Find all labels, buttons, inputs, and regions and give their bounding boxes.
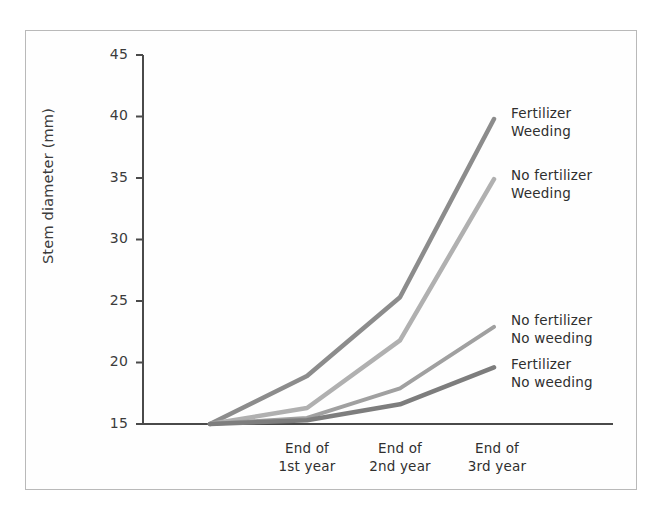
series-label-fertilizer-weeding-line1: Fertilizer bbox=[511, 105, 571, 123]
series-line-fertilizer-weeding bbox=[210, 119, 494, 424]
plot-area bbox=[0, 0, 664, 516]
y-tick-label-35: 35 bbox=[88, 169, 128, 185]
chart-page: Stem diameter (mm) 45 40 35 30 25 20 15 … bbox=[0, 0, 664, 516]
y-axis-title: Stem diameter (mm) bbox=[40, 56, 56, 316]
series-label-no-fertilizer-no-weeding-line2: No weeding bbox=[511, 330, 593, 348]
y-tick-label-30: 30 bbox=[88, 230, 128, 246]
series-line-no-fertilizer-weeding bbox=[210, 179, 494, 424]
series-label-fertilizer-no-weeding-line1: Fertilizer bbox=[511, 356, 593, 374]
series-label-no-fertilizer-no-weeding: No fertilizer No weeding bbox=[511, 312, 593, 348]
series-label-fertilizer-weeding-line2: Weeding bbox=[511, 123, 571, 141]
series-label-fertilizer-no-weeding-line2: No weeding bbox=[511, 374, 593, 392]
series-label-no-fertilizer-no-weeding-line1: No fertilizer bbox=[511, 312, 593, 330]
x-tick-label-3rd-year: End of 3rd year bbox=[437, 440, 557, 476]
y-tick-label-15: 15 bbox=[88, 415, 128, 431]
series-label-no-fertilizer-weeding-line1: No fertilizer bbox=[511, 167, 592, 185]
y-tick-label-40: 40 bbox=[88, 107, 128, 123]
series-label-fertilizer-no-weeding: Fertilizer No weeding bbox=[511, 356, 593, 392]
y-tick-label-20: 20 bbox=[88, 353, 128, 369]
series-label-no-fertilizer-weeding: No fertilizer Weeding bbox=[511, 167, 592, 203]
x-tick-label-3rd-year-line1: End of bbox=[437, 440, 557, 458]
series-label-no-fertilizer-weeding-line2: Weeding bbox=[511, 185, 592, 203]
series-label-fertilizer-weeding: Fertilizer Weeding bbox=[511, 105, 571, 141]
y-tick-label-45: 45 bbox=[88, 46, 128, 62]
y-tick-marks bbox=[136, 55, 143, 424]
x-tick-label-3rd-year-line2: 3rd year bbox=[437, 458, 557, 476]
y-tick-label-25: 25 bbox=[88, 292, 128, 308]
